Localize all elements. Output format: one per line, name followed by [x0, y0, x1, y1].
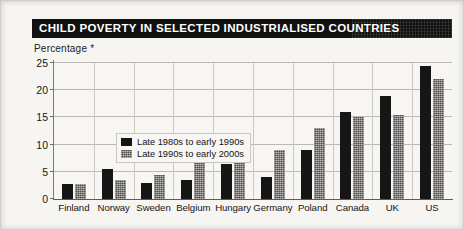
bar	[75, 184, 86, 199]
legend-item: Late 1990s to early 2000s	[121, 149, 244, 159]
bar-group	[333, 63, 373, 199]
x-axis-tick-label: UK	[372, 202, 412, 213]
bar-group	[134, 63, 174, 199]
chart-title-band: CHILD POVERTY IN SELECTED INDUSTRIALISED…	[32, 19, 452, 38]
y-axis-tick-label: 10	[36, 139, 48, 151]
bar-group	[173, 63, 213, 199]
bar	[353, 117, 364, 199]
x-axis-labels: FinlandNorwaySwedenBelgiumHungaryGermany…	[54, 202, 452, 213]
chart-legend: Late 1980s to early 1990s Late 1990s to …	[116, 133, 251, 163]
bar	[393, 115, 404, 199]
x-axis-tick-label: Poland	[293, 202, 333, 213]
bar	[194, 158, 205, 199]
y-axis-tick-label: 20	[36, 84, 48, 96]
bar	[433, 79, 444, 199]
legend-item-label: Late 1980s to early 1990s	[137, 137, 244, 147]
bar	[380, 96, 391, 199]
bar	[301, 150, 312, 199]
bar	[420, 66, 431, 199]
bar	[221, 164, 232, 199]
bar-group	[293, 63, 333, 199]
x-axis-tick-label: Sweden	[134, 202, 174, 213]
y-axis-tick-label: 5	[42, 166, 48, 178]
x-axis-tick-label: Canada	[333, 202, 373, 213]
bar-group	[372, 63, 412, 199]
chart-paper: CHILD POVERTY IN SELECTED INDUSTRIALISED…	[6, 5, 458, 225]
x-axis-tick-label: Finland	[54, 202, 94, 213]
legend-item: Late 1980s to early 1990s	[121, 137, 244, 147]
bar	[102, 169, 113, 199]
bar-group	[54, 63, 94, 199]
y-axis-tick-label: 0	[42, 193, 48, 205]
bar	[274, 150, 285, 199]
y-axis-tick-label: 15	[36, 111, 48, 123]
chart-figure: CHILD POVERTY IN SELECTED INDUSTRIALISED…	[0, 0, 464, 230]
x-axis-tick-label: Hungary	[213, 202, 253, 213]
y-axis-tick-label: 25	[36, 57, 48, 69]
bar	[340, 112, 351, 199]
x-axis-line	[53, 199, 453, 200]
bar-group	[253, 63, 293, 199]
x-axis-tick-label: US	[412, 202, 452, 213]
bar-groups	[54, 63, 452, 199]
plot-area: 0510152025 Late 1980s to early 1990s Lat…	[54, 63, 452, 199]
bar-group	[412, 63, 452, 199]
title-band-texture	[352, 19, 452, 38]
page-title: CHILD POVERTY IN SELECTED INDUSTRIALISED…	[39, 22, 399, 34]
y-axis-caption: Percentage *	[34, 43, 94, 54]
x-axis-tick-label: Germany	[253, 202, 293, 213]
bar	[154, 175, 165, 199]
bar	[141, 183, 152, 199]
bar-group	[94, 63, 134, 199]
bar	[115, 180, 126, 199]
bar	[314, 128, 325, 199]
bar	[261, 177, 272, 199]
legend-item-label: Late 1990s to early 2000s	[137, 149, 244, 159]
legend-swatch-icon	[121, 138, 132, 146]
bar	[62, 184, 73, 199]
x-axis-tick-label: Belgium	[173, 202, 213, 213]
bar-group	[213, 63, 253, 199]
legend-swatch-icon	[121, 150, 132, 158]
bar	[181, 180, 192, 199]
x-axis-tick-label: Norway	[94, 202, 134, 213]
